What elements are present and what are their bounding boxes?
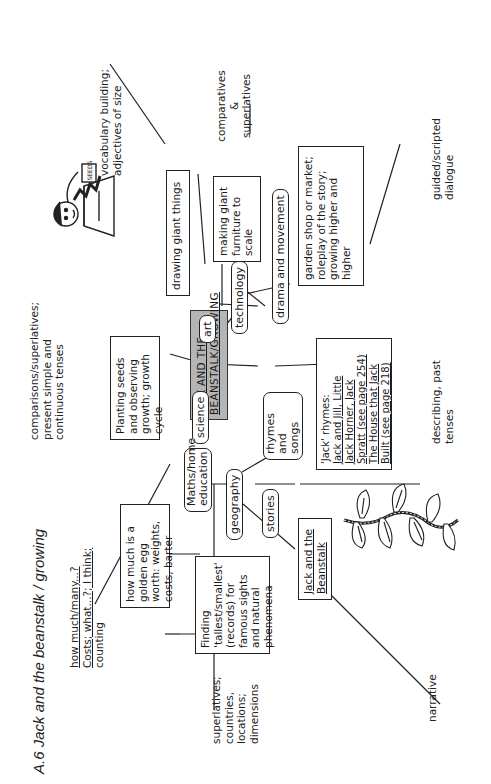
subject-stories: stories	[262, 489, 279, 538]
activity-technology: making giant furniture to scale	[213, 176, 261, 262]
maths-note-line2: Costs; what...?; I think;	[81, 548, 94, 668]
activity-stories: Jack and the Beanstalk	[298, 518, 332, 600]
activity-geography: Finding 'tallest/smallest' (records) for…	[195, 556, 270, 654]
maths-note-line1: how much/many...?	[68, 548, 81, 668]
subject-science: science	[192, 391, 209, 444]
activity-stories-label: Jack and the Beanstalk	[302, 529, 327, 594]
activity-rhymes: 'Jack' rhymes: Jack and Jill, Little Jac…	[316, 338, 392, 470]
language-rhymes: describing, past tenses	[430, 354, 455, 444]
subject-art: art	[199, 315, 216, 343]
rhymes-line5: The House that Jack	[368, 344, 380, 464]
activity-maths: how much is a golden egg worth: weights,…	[120, 504, 170, 608]
activity-drama: garden shop or market; roleplay of the s…	[298, 146, 364, 286]
tech-note-line3: superlatives	[240, 64, 253, 148]
language-maths: how much/many...? Costs; what...?; I thi…	[68, 548, 106, 668]
language-science: comparisons/superlatives; present simple…	[28, 290, 66, 440]
subject-geography: geography	[226, 469, 243, 540]
rhymes-line2: Jack and Jill, Little	[332, 344, 344, 464]
tech-note-line2: &	[228, 64, 241, 148]
maths-note-line3: counting	[93, 548, 106, 668]
beanstalk-vine-illustration	[338, 472, 462, 568]
language-stories: narrative	[426, 674, 439, 722]
svg-text:SEEDS: SEEDS	[86, 160, 93, 180]
activity-art: drawing giant things	[166, 170, 190, 296]
language-geography: superlatives; countries, locations; dime…	[210, 652, 260, 744]
subject-maths-label: Maths/home education	[185, 438, 210, 506]
activity-science: Planting seeds and observing growth; gro…	[110, 336, 160, 440]
subject-rhymes-label: rhymes and songs	[264, 413, 301, 454]
boy-with-seed-pot-illustration: SEEDS	[44, 156, 144, 256]
subject-drama: drama and movement	[272, 189, 289, 324]
page-title: A.6 Jack and the beanstalk / growing	[30, 529, 47, 774]
language-drama: guided/scripted dialogue	[430, 104, 455, 200]
rhymes-line4: Spratt (see page 254)	[356, 344, 368, 464]
subject-rhymes: rhymes and songs	[263, 392, 303, 460]
topic-web-diagram: A.6 Jack and the beanstalk / growing JAC…	[0, 0, 491, 784]
rhymes-line3: Jack Horner, Jack	[344, 344, 356, 464]
rhymes-line1: 'Jack' rhymes:	[320, 344, 332, 464]
subject-maths: Maths/home education	[184, 448, 212, 512]
rhymes-line6: Built (see page 218)	[380, 344, 392, 464]
tech-note-line1: comparatives	[215, 64, 228, 148]
subject-technology: technology	[231, 261, 248, 334]
language-technology: comparatives & superlatives	[215, 64, 253, 148]
